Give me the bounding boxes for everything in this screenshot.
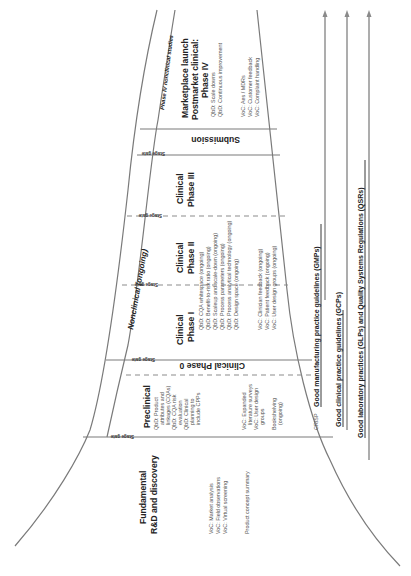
marketplace-title-line3: Phase IV <box>200 62 210 98</box>
stage-gate-label-phase3: Stage gate <box>138 213 162 218</box>
regulations: Good manufacturing practice guidelines (… <box>313 160 365 438</box>
marketplace-title-line1: Marketplace launch <box>180 38 190 118</box>
marketplace-qbd-2: QbD: Continuous improvement <box>217 42 223 117</box>
preclinical-title: Preclinical <box>142 385 152 428</box>
drug-development-funnel-diagram: Phase IV nonclinical studies Nonclinical… <box>0 0 411 576</box>
phase2-qbd-4: QbD: Process parameters (ongoing) <box>219 243 225 330</box>
preclinical-bookshelving-2: (ongoing) <box>277 402 283 425</box>
phase2-voc-3: VoC: User design groups (ongoing) <box>271 246 277 330</box>
gcp-label: Good clinical practice guidelines (GCPs) <box>335 292 343 427</box>
submission-title: Submission <box>191 135 240 145</box>
fundamental-voc-2: VoC: Field observations <box>215 477 221 534</box>
phase1-title-line2: Phase I <box>186 312 196 342</box>
preclinical-stage: Preclinical QbD: Product attributes and … <box>142 384 319 430</box>
nonclinical-band-label: Nonclinical (ongoing) <box>126 248 149 330</box>
fundamental-stage: Fundamental R&D and discovery VoC: Marke… <box>138 455 250 534</box>
phase2-qbd-3: QbD: Scaleup and scale-down (ongoing) <box>212 233 218 330</box>
glp-qsr-arrowhead-icon <box>367 10 372 17</box>
gmp-label: Good manufacturing practice guidelines (… <box>313 246 321 407</box>
phase2-voc-2: VoC: Patient feedback (ongoing) <box>264 252 270 330</box>
phase3-title-line2: Phase III <box>186 172 196 207</box>
marketplace-voc-2: VoC: Customer feedback <box>247 57 253 117</box>
phase2-qbd-6: QbD: Design space (ongoing) <box>233 259 239 330</box>
phase2-qbd-5: QbD: Process analytical technology (ongo… <box>226 220 232 330</box>
stage-gate-label-submission: Stage gate <box>141 151 165 156</box>
phase2-voc-1: VoC: Clinician feedback (ongoing) <box>257 249 263 330</box>
clinical-phase3-stage: Clinical Phase III <box>175 172 196 207</box>
fundamental-voc-1: VoC: Market analysis <box>208 483 214 534</box>
fundamental-voc-3: VoC: Virtual screening <box>222 481 228 534</box>
marketplace-qbd-1: QbD: Scale downs <box>210 72 216 117</box>
phase2-qbd-1: QbD: CQA whitespace (ongoing) <box>198 252 204 330</box>
stage-gate-label-phase2: Stage gate <box>134 282 158 287</box>
fundamental-product-concept: Product concept summary <box>244 471 250 534</box>
gmp-arrowhead-icon <box>323 10 328 17</box>
phase1-title-line1: Clinical <box>175 314 185 345</box>
gcp-arrowhead-icon <box>345 10 350 17</box>
clinical-phase1-stage: Clinical Phase I <box>175 312 196 345</box>
fundamental-title-line1: Fundamental <box>138 471 148 524</box>
marketplace-title-line2: Postmarket clinical: <box>190 39 200 120</box>
funnel-right-edge <box>257 10 400 566</box>
marketplace-stage: Marketplace launch Postmarket clinical: … <box>180 38 260 120</box>
glp-qsr-label: Good laboratory practices (GLPs) and Qua… <box>357 188 365 439</box>
stage-gate-label-phase1: Stage gate <box>131 357 155 362</box>
phase2-qbd-2: QbD: Benefit-to-risk ratio (ongoing) <box>205 246 211 330</box>
fundamental-title-line2: R&D and discovery <box>149 455 159 534</box>
phase3-title-line1: Clinical <box>175 173 185 204</box>
phase2-title-line2: Phase II <box>186 242 196 274</box>
marketplace-voc-3: VoC: Complaint handling <box>254 58 260 117</box>
stage-gate-label-preclinical: Stage gate <box>110 434 134 439</box>
preclinical-qbd-8: include CPPs <box>195 392 201 425</box>
phase2-title-line1: Clinical <box>175 242 185 273</box>
phase0-title: Clinical Phase 0 <box>179 361 245 371</box>
marketplace-voc-1: VoC: Aes / MDRs <box>240 75 246 117</box>
preclinical-crisp: CRISP <box>313 413 319 430</box>
phase4-nonclinical-band-label: Phase IV nonclinical studies <box>159 35 174 110</box>
preclinical-voc-4: groups <box>259 408 265 425</box>
